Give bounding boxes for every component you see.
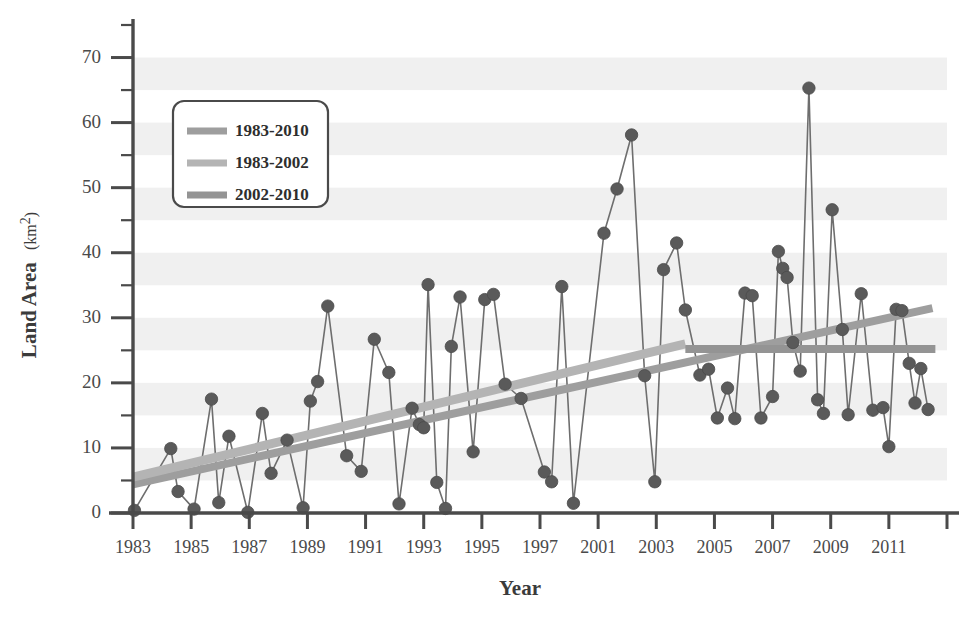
y-tick-label: 10 bbox=[82, 436, 101, 457]
data-point bbox=[746, 289, 758, 301]
x-tick-label: 2007 bbox=[755, 537, 791, 557]
data-point bbox=[794, 365, 806, 377]
data-point bbox=[896, 304, 908, 316]
data-point bbox=[787, 336, 799, 348]
data-point bbox=[322, 300, 334, 312]
x-tick-label: 2003 bbox=[638, 537, 674, 557]
data-point bbox=[281, 434, 293, 446]
data-point bbox=[311, 375, 323, 387]
x-tick-label: 1991 bbox=[348, 537, 384, 557]
data-point bbox=[304, 395, 316, 407]
data-point bbox=[545, 476, 557, 488]
y-tick-label: 40 bbox=[82, 241, 101, 262]
data-point bbox=[817, 407, 829, 419]
data-point bbox=[172, 485, 184, 497]
x-tick-label: 1995 bbox=[464, 537, 500, 557]
data-point bbox=[213, 496, 225, 508]
data-point bbox=[625, 129, 637, 141]
y-tick-label: 70 bbox=[82, 46, 101, 67]
x-tick-label: 1987 bbox=[231, 537, 267, 557]
x-tick-label: 1989 bbox=[289, 537, 325, 557]
data-point bbox=[903, 357, 915, 369]
data-point bbox=[431, 476, 443, 488]
data-point bbox=[670, 237, 682, 249]
data-point bbox=[883, 440, 895, 452]
data-point bbox=[368, 333, 380, 345]
legend-label-2002-2010: 2002-2010 bbox=[235, 185, 309, 204]
data-point bbox=[383, 366, 395, 378]
x-tick-label: 1985 bbox=[173, 537, 209, 557]
data-point bbox=[223, 430, 235, 442]
data-point bbox=[803, 82, 815, 94]
data-point bbox=[781, 271, 793, 283]
data-point bbox=[721, 382, 733, 394]
y-axis-title-unit-close: ) bbox=[22, 212, 40, 217]
data-point bbox=[877, 401, 889, 413]
data-point bbox=[422, 278, 434, 290]
data-point bbox=[499, 378, 511, 390]
y-axis-title-main: Land Area bbox=[17, 262, 41, 358]
data-point bbox=[567, 497, 579, 509]
y-tick-label: 30 bbox=[82, 306, 101, 327]
data-point bbox=[340, 450, 352, 462]
y-tick-label: 0 bbox=[92, 501, 102, 522]
x-tick-label: 2009 bbox=[813, 537, 849, 557]
y-axis-title-superscript: 2 bbox=[18, 217, 33, 224]
legend-label-1983-2002: 1983-2002 bbox=[235, 153, 309, 172]
background-band bbox=[133, 253, 947, 286]
data-point bbox=[909, 397, 921, 409]
data-point bbox=[454, 291, 466, 303]
y-axis-title-unit: (km bbox=[22, 224, 40, 250]
data-point bbox=[638, 370, 650, 382]
data-point bbox=[649, 476, 661, 488]
chart-legend: 1983-20101983-20022002-2010 bbox=[173, 101, 328, 207]
data-point bbox=[657, 263, 669, 275]
background-band bbox=[133, 58, 947, 91]
data-point bbox=[406, 402, 418, 414]
x-tick-label: 2001 bbox=[580, 537, 616, 557]
data-point bbox=[772, 245, 784, 257]
data-point bbox=[418, 422, 430, 434]
data-point bbox=[811, 394, 823, 406]
data-point bbox=[355, 465, 367, 477]
data-point bbox=[487, 288, 499, 300]
data-point bbox=[256, 407, 268, 419]
x-tick-label: 2011 bbox=[871, 537, 906, 557]
data-point bbox=[598, 227, 610, 239]
legend-label-1983-2010: 1983-2010 bbox=[235, 121, 309, 140]
x-tick-label: 1983 bbox=[115, 537, 151, 557]
data-point bbox=[205, 393, 217, 405]
data-point bbox=[826, 204, 838, 216]
data-point bbox=[265, 467, 277, 479]
data-point bbox=[556, 280, 568, 292]
data-point bbox=[611, 183, 623, 195]
data-point bbox=[836, 323, 848, 335]
y-tick-label: 20 bbox=[82, 371, 101, 392]
data-point bbox=[679, 304, 691, 316]
data-point bbox=[702, 363, 714, 375]
chart-figure: 010203040506070 198319851987198919911993… bbox=[0, 0, 977, 618]
data-point bbox=[855, 288, 867, 300]
data-point bbox=[711, 412, 723, 424]
y-tick-label: 60 bbox=[82, 111, 101, 132]
data-point bbox=[922, 403, 934, 415]
x-axis-title: Year bbox=[499, 576, 541, 600]
data-point bbox=[729, 412, 741, 424]
data-point bbox=[766, 390, 778, 402]
data-point bbox=[755, 412, 767, 424]
land-area-line-chart: 010203040506070 198319851987198919911993… bbox=[0, 0, 977, 618]
data-point bbox=[445, 340, 457, 352]
y-tick-label: 50 bbox=[82, 176, 101, 197]
data-point bbox=[515, 392, 527, 404]
data-point bbox=[915, 362, 927, 374]
x-tick-label: 2005 bbox=[696, 537, 732, 557]
data-point bbox=[842, 409, 854, 421]
x-tick-label: 1997 bbox=[522, 537, 558, 557]
data-point bbox=[165, 442, 177, 454]
x-tick-label: 1993 bbox=[406, 537, 442, 557]
data-point bbox=[393, 498, 405, 510]
data-point bbox=[467, 446, 479, 458]
